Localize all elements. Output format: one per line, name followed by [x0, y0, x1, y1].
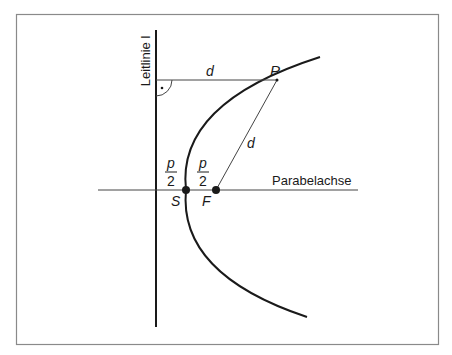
- half-p-fraction-right: p 2: [197, 155, 209, 189]
- right-angle-dot: [161, 87, 164, 90]
- point-p-label: P: [270, 62, 280, 79]
- axis-label: Parabelachse: [272, 173, 352, 188]
- half-p-right-denominator: 2: [199, 173, 207, 189]
- right-angle-marker: [156, 80, 172, 96]
- parabola-diagram: Leitlinie l Parabelachse P d d S F p 2 p…: [0, 0, 452, 355]
- half-p-left-numerator: p: [166, 155, 175, 171]
- distance-label-horizontal: d: [206, 63, 215, 79]
- distance-label-focal: d: [247, 135, 256, 151]
- vertex-label: S: [171, 193, 181, 209]
- focus-label: F: [202, 193, 212, 209]
- half-p-left-denominator: 2: [167, 173, 175, 189]
- half-p-fraction-left: p 2: [165, 155, 177, 189]
- vertex-point: [182, 186, 190, 194]
- directrix-label: Leitlinie l: [138, 36, 153, 87]
- half-p-right-numerator: p: [198, 155, 207, 171]
- figure-frame: [17, 15, 439, 345]
- focus-point: [212, 186, 220, 194]
